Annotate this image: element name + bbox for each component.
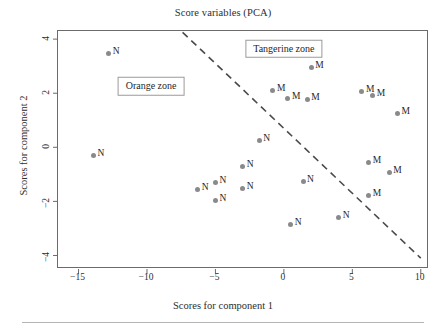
data-point-n	[91, 153, 96, 158]
data-point-label: N	[247, 181, 254, 191]
data-point-label: N	[113, 46, 120, 56]
y-axis-label: Scores for component 2	[18, 61, 29, 231]
y-tick-label: 2	[41, 90, 51, 114]
data-point-n	[213, 180, 218, 185]
data-point-label: M	[402, 106, 410, 116]
x-tick-label: −5	[194, 272, 234, 282]
data-point-label: M	[373, 188, 381, 198]
tangerine-zone-label: Tangerine zone	[245, 39, 322, 58]
x-axis-label: Scores for component 1	[0, 300, 446, 311]
data-point-m	[366, 160, 371, 165]
page-title: Score variables (PCA)	[0, 7, 446, 18]
y-tick-label: −4	[41, 252, 51, 276]
tick-marks	[53, 39, 421, 274]
data-point-label: N	[263, 133, 270, 143]
x-tick-label: −15	[58, 272, 98, 282]
y-tick-label: 4	[41, 36, 51, 60]
data-point-label: N	[295, 217, 302, 227]
data-point-label: N	[219, 193, 226, 203]
data-point-label: M	[377, 88, 385, 98]
data-point-label: N	[202, 182, 209, 192]
data-point-label: M	[292, 91, 300, 101]
data-point-label: M	[311, 92, 319, 102]
data-point-label: M	[373, 155, 381, 165]
plot-area: NNNNNNNNNNNMMMMMMMMMM Tangerine zoneOran…	[57, 30, 428, 268]
pca-score-plot-figure: Score variables (PCA) Scores for compone…	[0, 0, 446, 330]
data-point-label: N	[98, 148, 105, 158]
data-point-label: N	[343, 210, 350, 220]
y-tick-label: 0	[41, 144, 51, 168]
x-tick-label: 0	[263, 272, 303, 282]
data-point-n	[257, 138, 262, 143]
x-tick-label: −10	[126, 272, 166, 282]
x-tick-label: 10	[400, 272, 440, 282]
footer-divider	[22, 322, 424, 323]
data-point-label: M	[277, 83, 285, 93]
data-point-label: N	[247, 159, 254, 169]
orange-zone-label: Orange zone	[118, 77, 185, 96]
data-point-n	[195, 187, 200, 192]
plot-canvas	[58, 31, 429, 269]
data-point-label: N	[307, 174, 314, 184]
data-point-label: N	[219, 175, 226, 185]
data-point-m	[305, 97, 310, 102]
data-point-m	[387, 170, 392, 175]
data-point-n	[213, 198, 218, 203]
data-point-label: M	[315, 60, 323, 70]
data-point-label: M	[393, 165, 401, 175]
y-tick-label: −2	[41, 198, 51, 222]
data-point-m	[309, 65, 314, 70]
x-tick-label: 5	[331, 272, 371, 282]
data-point-m	[395, 111, 400, 116]
